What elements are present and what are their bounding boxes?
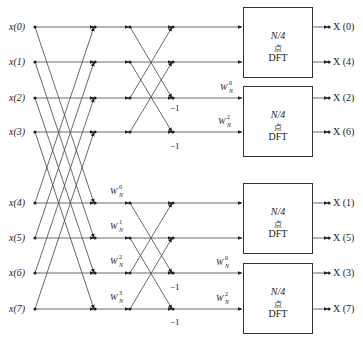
input-label-x2: x(2) (9, 93, 25, 103)
output-lines (312, 27, 328, 309)
twiddle-stage2-3: W2N (216, 294, 224, 303)
input-label-x4: x(4) (9, 198, 25, 208)
stage2-cross-lines (130, 27, 172, 309)
minus-one-label: −1 (170, 104, 180, 113)
box-input-lines (173, 27, 242, 309)
output-label-X5: X (5) (333, 233, 354, 243)
dft-block-2: N/4 点 DFT (243, 86, 313, 157)
output-label-X0: X (0) (333, 22, 354, 32)
output-label-X4: X (4) (333, 57, 354, 67)
output-label-X2: X (2) (333, 93, 354, 103)
twiddle-stage2-1: W2N (218, 117, 226, 126)
twiddle-stage2-0: W0N (220, 83, 228, 92)
input-label-x1: x(1) (9, 57, 25, 67)
input-label-x5: x(5) (9, 233, 25, 243)
output-label-X6: X (6) (333, 127, 354, 137)
minus-one-label: −1 (170, 142, 180, 151)
dft-block-1: N/4 点 DFT (243, 7, 313, 78)
twiddle-stage1-3: W3N (110, 293, 118, 302)
dft-block-3: N/4 点 DFT (243, 183, 313, 254)
input-label-x7: x(7) (9, 304, 25, 314)
output-label-X7: X (7) (333, 304, 354, 314)
twiddle-stage1-0: W0N (110, 187, 118, 196)
input-label-x3: x(3) (9, 127, 25, 137)
stage1-horizontal-lines (35, 27, 94, 309)
twiddle-stage1-2: W2N (110, 257, 118, 266)
minus-one-label: −1 (170, 283, 180, 292)
twiddle-stage2-2: W0N (216, 258, 224, 267)
inter-stage-lines (95, 27, 129, 309)
output-label-X1: X (1) (333, 198, 354, 208)
stage2-horizontal-lines (130, 27, 172, 309)
stage1-cross-lines (35, 27, 94, 309)
output-label-X3: X (3) (333, 268, 354, 278)
input-label-x0: x(0) (9, 22, 25, 32)
input-label-x6: x(6) (9, 268, 25, 278)
minus-one-label: −1 (170, 318, 180, 327)
dft-block-4: N/4 点 DFT (243, 263, 313, 334)
twiddle-stage1-1: W1N (110, 222, 118, 231)
